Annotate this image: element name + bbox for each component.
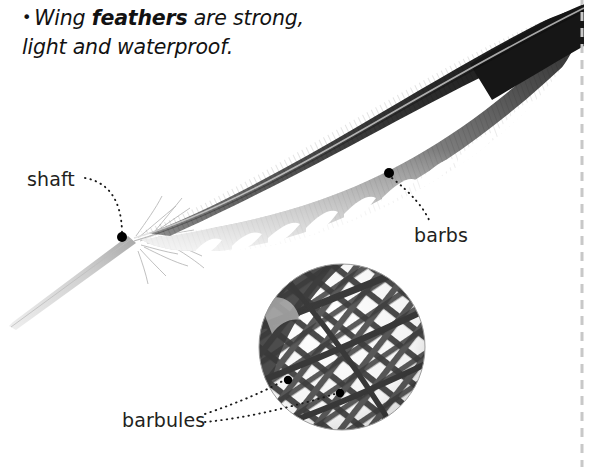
- feather-quill: [9, 236, 136, 330]
- barbule-magnifier-inset: [252, 258, 438, 432]
- caption-emphasis: feathers: [92, 6, 188, 30]
- label-barbs: barbs: [414, 224, 468, 246]
- feather-illustration: [0, 0, 594, 467]
- leader-shaft: [85, 178, 122, 234]
- label-barbules: barbules: [122, 409, 205, 431]
- feather-quill-edge: [11, 239, 131, 327]
- dot-barbules-lower: [336, 389, 344, 397]
- caption-line1-post: are strong,: [187, 6, 303, 30]
- caption-line1-pre: Wing: [34, 6, 92, 30]
- dot-shaft: [117, 232, 127, 242]
- figure-page: •Wing feathers are strong, light and wat…: [0, 0, 594, 467]
- caption-line2: light and waterproof.: [22, 35, 233, 59]
- dot-barbs: [384, 168, 394, 178]
- caption-text: •Wing feathers are strong, light and wat…: [22, 4, 352, 62]
- bullet-glyph: •: [22, 8, 31, 27]
- dot-barbules-upper: [284, 376, 292, 384]
- label-shaft: shaft: [27, 168, 75, 190]
